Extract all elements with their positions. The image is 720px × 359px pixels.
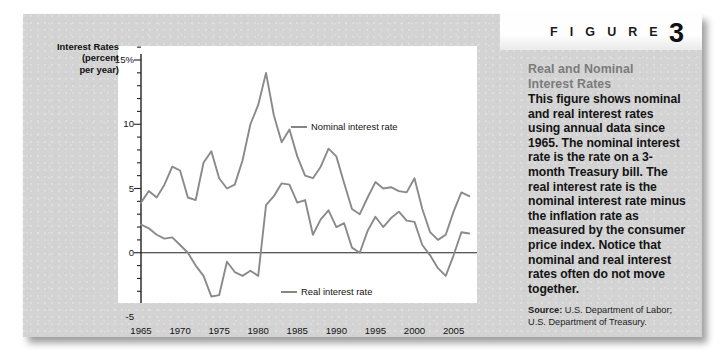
chart-svg <box>118 46 477 303</box>
figure-source-label: Source: <box>528 305 562 315</box>
y-axis-title-line-3: per year) <box>37 64 119 75</box>
figure-heading: Real and Nominal Interest Rates <box>528 62 688 91</box>
figure-word-label: F I G U R E <box>550 25 662 39</box>
y-axis-title-line-1: Interest Rates <box>37 41 119 52</box>
y-tick-label: 0 <box>100 247 134 258</box>
figure-card: F I G U R E 3 Interest Rates (percent pe… <box>23 14 702 337</box>
series-label-nominal: Nominal interest rate <box>311 121 398 132</box>
y-tick-label: 15% <box>100 54 134 65</box>
series-label-real: Real interest rate <box>301 286 372 297</box>
figure-heading-line-2: Interest Rates <box>528 77 688 92</box>
chart-plot-area <box>118 46 477 303</box>
figure-description: Real and Nominal Interest Rates This fig… <box>528 62 688 328</box>
figure-source: Source: U.S. Department of Labor; U.S. D… <box>528 305 688 327</box>
y-tick-label: 10 <box>100 118 134 129</box>
figure-banner: F I G U R E 3 <box>500 14 702 50</box>
figure-heading-line-1: Real and Nominal <box>528 62 688 77</box>
series-line-nominal <box>141 73 469 240</box>
figure-number: 3 <box>669 20 684 47</box>
y-tick-label: -5 <box>100 311 134 322</box>
y-tick-label: 5 <box>100 183 134 194</box>
x-tick-label: 2005 <box>431 325 477 336</box>
figure-body-text: This figure shows nominal and real inter… <box>528 92 688 296</box>
